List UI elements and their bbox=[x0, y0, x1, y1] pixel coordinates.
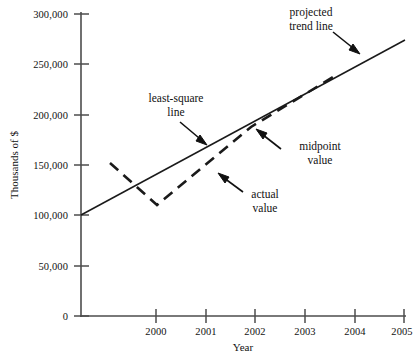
least-square-trend-line bbox=[81, 40, 405, 215]
x-axis-title: Year bbox=[233, 341, 253, 353]
chart-figure: 300,000 200,000 250,000 150,000 100,000 … bbox=[0, 0, 418, 361]
chart-canvas bbox=[0, 0, 418, 361]
y-axis-title: Thousands of $ bbox=[8, 131, 20, 199]
annotation-midpoint-value: midpoint value bbox=[299, 140, 341, 167]
x-tick-label-2003: 2003 bbox=[294, 326, 315, 337]
annotation-least-square-line-1: least-square bbox=[149, 92, 204, 106]
y-tick-label-200000: 200,000 bbox=[10, 110, 68, 121]
x-tick-label-2000: 2000 bbox=[145, 326, 166, 337]
x-tick-label-2001: 2001 bbox=[195, 326, 216, 337]
annotation-actual-value-2: value bbox=[251, 202, 278, 216]
annotation-arrows bbox=[180, 32, 360, 192]
annotation-projected-trend-line-1: projected bbox=[289, 6, 333, 20]
annotation-actual-value: actual value bbox=[251, 188, 278, 215]
y-tick-label-50000: 50,000 bbox=[10, 261, 68, 272]
annotation-projected-trend-line-2: trend line bbox=[289, 20, 333, 34]
annotation-actual-value-1: actual bbox=[251, 188, 278, 202]
annotation-midpoint-value-2: value bbox=[299, 154, 341, 168]
y-tick-label-100000: 100,000 bbox=[10, 210, 68, 221]
x-tick-label-2002: 2002 bbox=[244, 326, 265, 337]
y-tick-label-300000: 300,000 bbox=[10, 9, 68, 20]
y-tick-label-0: 0 bbox=[10, 311, 68, 322]
annotation-midpoint-value-1: midpoint bbox=[299, 140, 341, 154]
annotation-least-square-line: least-square line bbox=[149, 92, 204, 119]
x-tick-label-2005: 2005 bbox=[391, 326, 412, 337]
y-tick-label-250000: 250,000 bbox=[10, 59, 68, 70]
annotation-projected-trend-line: projected trend line bbox=[289, 6, 333, 33]
axes-group bbox=[80, 12, 406, 317]
annotation-least-square-line-2: line bbox=[149, 106, 204, 120]
x-tick-label-2004: 2004 bbox=[344, 326, 365, 337]
